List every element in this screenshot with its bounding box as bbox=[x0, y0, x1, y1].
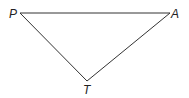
vertex-label-t: T bbox=[83, 83, 92, 97]
vertex-label-p: P bbox=[9, 7, 17, 21]
edge-at bbox=[87, 13, 170, 81]
vertex-label-a: A bbox=[170, 7, 179, 21]
edge-tp bbox=[20, 13, 87, 81]
triangle-diagram: P A T bbox=[0, 0, 189, 98]
